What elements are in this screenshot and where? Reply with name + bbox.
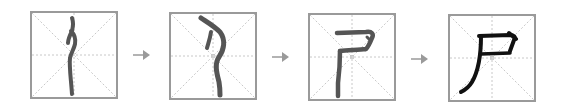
step-4-grid: Step 4 [448,14,536,102]
step-3-grid: Step 3 [308,13,396,101]
arrow-icon-2 [272,51,290,63]
step-1-grid: Step 1 [30,11,118,99]
arrow-icon-3 [411,53,429,65]
arrow-icon-1 [133,49,151,61]
step-3-glyph [308,13,396,101]
step-2-grid: Step 2 [169,12,257,100]
step-2-glyph [169,12,257,100]
step-1-glyph [30,11,118,99]
step-4-glyph [448,14,536,102]
